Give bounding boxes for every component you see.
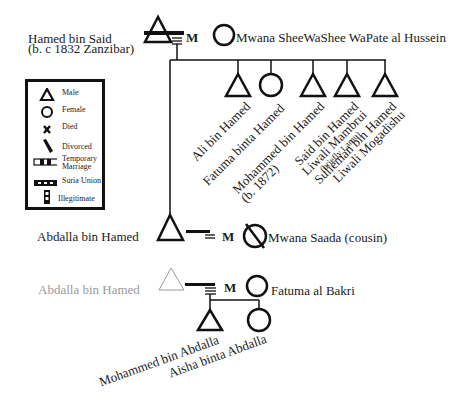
legend-box: Male Female Died Divorced Temporary Marr… bbox=[25, 79, 105, 210]
male-triangle-said bbox=[335, 74, 359, 96]
suria-union-icon bbox=[31, 176, 57, 190]
legend-item-temporary-marriage: Temporary Marriage bbox=[28, 155, 102, 173]
legend-item-male: Male bbox=[28, 88, 102, 102]
marriage-marker-gen1: M bbox=[186, 31, 198, 44]
label-abdalla-ghost: Abdalla bin Hamed bbox=[38, 283, 140, 296]
legend-item-illegitimate: Illegitimate bbox=[28, 189, 102, 205]
legend-item-died: Died bbox=[28, 122, 102, 136]
legend-item-suria-union: Suria Union bbox=[28, 176, 102, 190]
male-triangle-mohammed-abdalla bbox=[198, 310, 222, 330]
illegitimate-icon bbox=[36, 189, 58, 205]
male-triangle-abdalla-ghost bbox=[159, 268, 184, 290]
x-icon bbox=[36, 122, 58, 136]
label-fatuma-bakri: Fatuma al Bakri bbox=[271, 284, 355, 297]
female-circle-aisha bbox=[248, 309, 270, 331]
circle-icon bbox=[36, 105, 58, 119]
slash-icon bbox=[36, 139, 58, 153]
temporary-marriage-icon bbox=[31, 155, 57, 169]
label-mwana-saada: Mwana Saada (cousin) bbox=[268, 231, 387, 244]
male-triangle-hamed bbox=[145, 17, 171, 42]
marriage-marker-abdalla-2: M bbox=[224, 281, 236, 294]
marriage-marker-abdalla-1: M bbox=[222, 230, 234, 243]
female-circle-fatuma bbox=[260, 74, 282, 96]
marriage-bar-gen1 bbox=[144, 31, 184, 35]
legend-item-divorced: Divorced bbox=[28, 139, 102, 153]
female-circle-fatuma-bakri bbox=[247, 276, 267, 296]
male-triangle-sulieman bbox=[373, 74, 397, 96]
female-circle-mwana-sheewashee bbox=[214, 25, 234, 45]
male-triangle-abdalla bbox=[158, 215, 183, 240]
male-triangle-mohammed bbox=[301, 74, 325, 96]
triangle-icon bbox=[36, 88, 58, 102]
label-abdalla: Abdalla bin Hamed bbox=[37, 230, 139, 243]
male-triangle-ali bbox=[226, 74, 250, 96]
legend-item-female: Female bbox=[28, 105, 102, 119]
label-hamed-note: (b. c 1832 Zanzibar) bbox=[28, 42, 134, 55]
label-mwana-sheewashee: Mwana SheeWaShee WaPate al Hussein bbox=[236, 31, 446, 44]
